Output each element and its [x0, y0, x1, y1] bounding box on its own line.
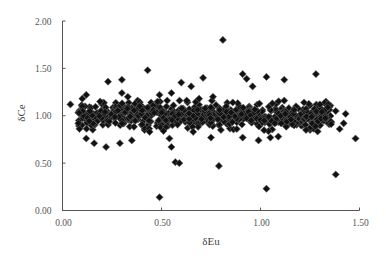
data-point-marker — [263, 185, 270, 192]
data-point-marker — [166, 135, 173, 142]
data-point-marker — [128, 137, 135, 144]
data-point-marker — [156, 194, 163, 201]
y-axis-title: δCe — [15, 104, 27, 122]
data-point-marker — [116, 140, 123, 147]
y-tick-label: 0.00 — [35, 206, 52, 216]
data-point-marker — [342, 110, 349, 117]
plot-area — [67, 36, 359, 200]
data-point-marker — [67, 101, 74, 108]
data-point-marker — [332, 171, 339, 178]
x-tick-label: 0.00 — [55, 218, 72, 228]
data-point-marker — [263, 73, 270, 80]
data-point-marker — [255, 137, 262, 144]
data-point-marker — [229, 99, 236, 106]
data-point-marker — [336, 125, 343, 132]
data-point-marker — [267, 134, 274, 141]
data-point-marker — [124, 93, 131, 100]
data-point-marker — [168, 89, 175, 96]
data-point-marker — [104, 78, 111, 85]
y-tick-label: 1.00 — [35, 111, 52, 121]
data-point-marker — [249, 83, 256, 90]
scatter-chart: 0.000.501.001.502.00 0.000.501.001.50 δE… — [0, 0, 386, 262]
data-point-marker — [239, 134, 246, 141]
data-point-marker — [188, 83, 195, 90]
data-point-marker — [102, 143, 109, 150]
x-tick-label: 0.50 — [154, 218, 171, 228]
data-point-marker — [312, 70, 319, 77]
data-point-marker — [168, 143, 175, 150]
data-point-marker — [332, 107, 339, 114]
x-tick-label: 1.00 — [253, 218, 270, 228]
data-point-marker — [190, 128, 197, 135]
data-point-marker — [156, 91, 163, 98]
data-point-marker — [219, 36, 226, 43]
y-tick-label: 2.00 — [35, 17, 52, 27]
y-tick-label: 1.50 — [35, 64, 52, 74]
data-point-marker — [340, 120, 347, 127]
data-point-marker — [215, 162, 222, 169]
data-point-marker — [352, 135, 359, 142]
data-point-marker — [275, 133, 282, 140]
data-point-marker — [199, 74, 206, 81]
y-axis-ticks: 0.000.501.001.502.00 — [35, 17, 66, 217]
data-point-marker — [176, 97, 183, 104]
data-point-marker — [164, 97, 171, 104]
x-axis-title: δEu — [202, 235, 220, 247]
data-point-marker — [207, 134, 214, 141]
y-tick-label: 0.50 — [35, 159, 52, 169]
data-point-marker — [118, 76, 125, 83]
data-point-marker — [91, 140, 98, 147]
data-point-marker — [144, 67, 151, 74]
data-point-marker — [281, 97, 288, 104]
data-point-marker — [118, 89, 125, 96]
x-tick-label: 1.50 — [352, 218, 369, 228]
data-point-marker — [281, 76, 288, 83]
data-point-marker — [83, 135, 90, 142]
data-point-marker — [178, 79, 185, 86]
